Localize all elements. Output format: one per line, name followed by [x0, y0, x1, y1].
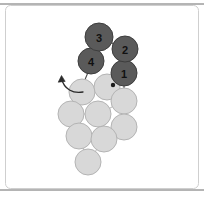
figure-canvas-container: 4 1 2 3: [0, 0, 204, 204]
node-circle-unselected[interactable]: [85, 101, 111, 127]
attachment-marker-dot: [111, 83, 115, 87]
molecule-graph-figure: 4 1 2 3: [0, 0, 204, 204]
node-circle-unselected[interactable]: [111, 88, 137, 114]
node-circle-2[interactable]: [112, 36, 138, 62]
node-circle-4[interactable]: [78, 48, 104, 74]
node-circle-unselected[interactable]: [75, 149, 101, 175]
node-group-1[interactable]: 1: [111, 60, 137, 86]
node-group-3[interactable]: 3: [85, 23, 113, 51]
node-circle-3[interactable]: [85, 23, 113, 51]
node-circle-unselected[interactable]: [66, 123, 92, 149]
node-circle-1[interactable]: [111, 60, 137, 86]
node-circle-unselected[interactable]: [91, 126, 117, 152]
node-group-2[interactable]: 2: [112, 36, 138, 62]
node-group-4[interactable]: 4: [78, 48, 104, 74]
